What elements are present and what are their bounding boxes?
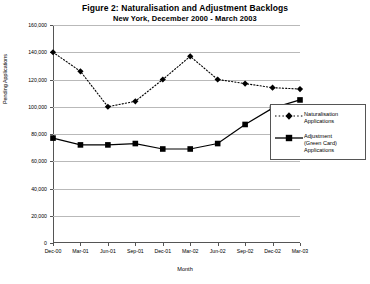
x-tick-mark [135,243,136,246]
x-tick-label: Dec-02 [259,248,287,254]
legend-label-adjustment: Adjustment (Green Card) Applications [304,132,337,154]
data-point-square [297,97,303,103]
data-point-square [215,141,221,147]
x-tick-label: Mar-03 [286,248,314,254]
x-tick-label: Sep-02 [231,248,259,254]
chart-title-block: Figure 2: Naturalisation and Adjustment … [0,3,370,24]
page-title: Figure 2: Naturalisation and Adjustment … [0,3,370,14]
legend-item-naturalisation: Naturalisation Applications [274,110,362,125]
y-tick-label: 120,000 [0,77,47,83]
y-tick-label: 20,000 [0,213,47,219]
data-point-square [242,122,248,128]
x-tick-label: Sep-01 [121,248,149,254]
series-line-naturalisation [53,52,300,107]
y-tick-label: 0 [0,240,47,246]
x-tick-label: Mar-02 [176,248,204,254]
x-tick-label: Dec-01 [149,248,177,254]
x-axis-title: Month [0,266,370,272]
x-tick-label: Jun-01 [94,248,122,254]
data-point-square [160,146,166,152]
x-tick-mark [190,243,191,246]
y-tick-label: 100,000 [0,104,47,110]
x-tick-mark [163,243,164,246]
y-tick-label: 160,000 [0,22,47,28]
x-tick-label: Dec-00 [39,248,67,254]
x-tick-label: Jun-02 [204,248,232,254]
chart-legend: Naturalisation Applications Adjustment (… [270,104,366,160]
x-tick-mark [53,243,54,246]
data-point-square [187,146,193,152]
y-tick-label: 80,000 [0,131,47,137]
chart-subtitle: New York, December 2000 - March 2003 [0,14,370,24]
y-tick-label: 140,000 [0,49,47,55]
legend-item-adjustment: Adjustment (Green Card) Applications [274,132,362,154]
legend-label-naturalisation: Naturalisation Applications [304,110,338,125]
x-tick-mark [300,243,301,246]
x-tick-mark [218,243,219,246]
y-tick-label: 60,000 [0,158,47,164]
data-point-diamond [242,80,248,86]
legend-swatch-square-icon [274,132,304,144]
data-point-diamond [215,76,221,82]
data-point-square [50,135,56,141]
plot-area [53,25,300,243]
data-point-diamond [269,85,275,91]
x-tick-mark [273,243,274,246]
legend-swatch-diamond-icon [274,110,304,122]
data-point-square [133,141,139,147]
data-point-diamond [50,49,56,55]
x-tick-label: Mar-01 [66,248,94,254]
y-tick-label: 40,000 [0,186,47,192]
series-line-adjustment [53,100,300,149]
x-tick-mark [80,243,81,246]
series-layer [53,25,300,243]
data-point-diamond [297,86,303,92]
x-tick-mark [245,243,246,246]
data-point-square [78,142,84,148]
data-point-square [105,142,111,148]
chart-figure: Figure 2: Naturalisation and Adjustment … [0,0,370,284]
x-tick-mark [108,243,109,246]
